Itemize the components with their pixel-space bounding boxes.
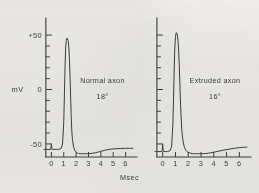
membrane-potential-trace [44, 38, 133, 153]
x-tick-label: 6 [237, 159, 241, 168]
x-tick-label: 5 [224, 159, 228, 168]
chart-panel-normal-axon: +500-50mV0123456Normal axon18° [12, 18, 137, 168]
x-tick-label: 1 [173, 159, 177, 168]
action-potential-figure: +500-50mV0123456Normal axon18°0123456Ext… [0, 0, 259, 193]
x-tick-label: 0 [160, 159, 164, 168]
x-tick-label: 2 [74, 159, 78, 168]
x-axis-label: Msec [120, 173, 139, 182]
panel-annotation-name: Normal axon [80, 76, 125, 85]
x-tick-label: 1 [62, 159, 66, 168]
x-tick-label: 2 [186, 159, 190, 168]
x-tick-label: 0 [49, 159, 53, 168]
membrane-potential-trace [155, 33, 247, 154]
y-tick-label: +50 [28, 31, 41, 40]
panel-annotation-temperature: 16° [209, 92, 221, 101]
x-tick-label: 3 [86, 159, 90, 168]
panel-annotation-name: Extruded axon [190, 76, 241, 85]
chart-panel-extruded-axon: 0123456Extruded axon16° [155, 18, 251, 168]
y-tick-label: 0 [37, 85, 41, 94]
y-axis-unit-label: mV [12, 85, 24, 94]
y-tick-label: -50 [30, 140, 42, 149]
x-tick-label: 5 [111, 159, 115, 168]
x-tick-label: 6 [123, 159, 127, 168]
x-tick-label: 4 [99, 159, 103, 168]
panel-annotation-temperature: 18° [97, 92, 109, 101]
x-tick-label: 3 [199, 159, 203, 168]
x-tick-label: 4 [212, 159, 216, 168]
